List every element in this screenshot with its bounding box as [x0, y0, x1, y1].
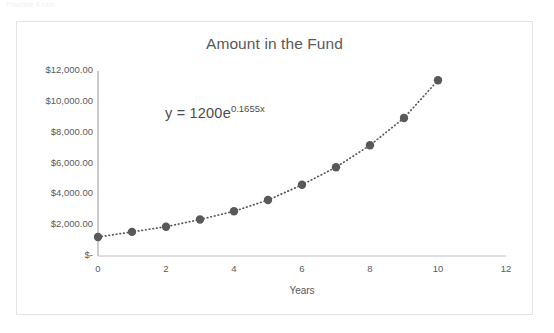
- chart-frame: Amount in the Fund $-$2,000.00$4,000.00$…: [16, 21, 533, 315]
- x-axis-tick-label: 8: [355, 263, 385, 274]
- equation-exponent: 0.1655x: [231, 103, 265, 114]
- x-axis-tick-labels: 024681012: [17, 22, 534, 316]
- trendline-equation-annotation: y = 1200e0.1655x: [165, 103, 265, 121]
- x-axis-tick-label: 2: [151, 263, 181, 274]
- x-axis-tick-label: 4: [219, 263, 249, 274]
- x-axis-tick-label: 10: [423, 263, 453, 274]
- x-axis-title: Years: [98, 285, 506, 296]
- x-axis-tick-label: 12: [491, 263, 521, 274]
- equation-base: y = 1200e: [165, 105, 231, 121]
- x-axis-tick-label: 6: [287, 263, 317, 274]
- scan-artifact-text: Practice Exam: [6, 1, 166, 8]
- x-axis-tick-label: 0: [83, 263, 113, 274]
